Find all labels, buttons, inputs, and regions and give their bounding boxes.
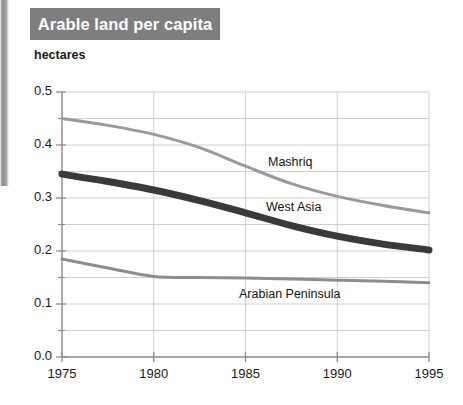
series-label-west-asia: West Asia — [266, 200, 321, 214]
line-chart-plot — [0, 0, 463, 405]
x-axis-tick-label: 1995 — [404, 366, 454, 381]
x-axis-tick-label: 1985 — [221, 366, 271, 381]
y-axis-tick-label: 0.1 — [18, 295, 52, 310]
chart-area: 0.00.10.20.30.40.519751980198519901995Ma… — [0, 0, 463, 405]
y-axis-tick-label: 0.4 — [18, 136, 52, 151]
y-axis-tick-label: 0.3 — [18, 189, 52, 204]
y-axis-tick-label: 0.2 — [18, 242, 52, 257]
axis-ticks — [56, 92, 429, 362]
y-axis-tick-label: 0.0 — [18, 348, 52, 363]
gridlines — [62, 92, 429, 357]
y-axis-tick-label: 0.5 — [18, 83, 52, 98]
series-label-mashriq: Mashriq — [268, 155, 312, 169]
x-axis-tick-label: 1990 — [312, 366, 362, 381]
x-axis-tick-label: 1980 — [129, 366, 179, 381]
x-axis-tick-label: 1975 — [37, 366, 87, 381]
series-label-arabian-peninsula: Arabian Peninsula — [239, 287, 340, 301]
